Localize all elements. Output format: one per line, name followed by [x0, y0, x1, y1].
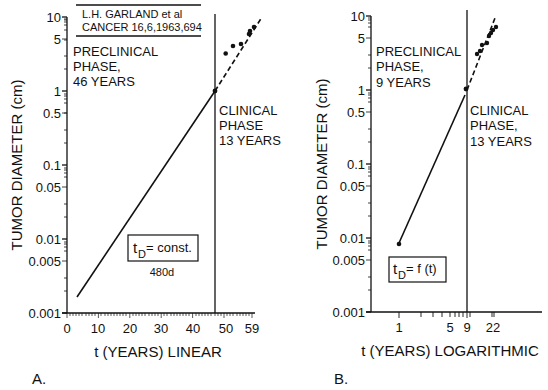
citation-line-1: L.H. GARLAND et al	[82, 8, 182, 20]
citation-line-2: CANCER 16,6,1963,694	[82, 21, 202, 33]
panel-a-ylabel: TUMOR DIAMETER (cm)	[8, 80, 25, 251]
panel-b-clinical-1: CLINICAL	[470, 103, 529, 118]
svg-text:10: 10	[91, 321, 105, 336]
svg-text:9 YEARS: 9 YEARS	[376, 75, 431, 90]
panel-b-xlabel: t (YEARS) LOGARITHMIC	[361, 342, 539, 359]
svg-text:PHASE,: PHASE,	[376, 59, 424, 74]
panel-a-doubling-text: = const.	[146, 240, 192, 255]
svg-text:PHASE: PHASE	[219, 118, 263, 133]
svg-text:0: 0	[63, 321, 70, 336]
svg-text:0.01: 0.01	[36, 232, 61, 247]
svg-text:0.001: 0.001	[332, 305, 365, 320]
svg-text:1: 1	[358, 83, 365, 98]
svg-text:5: 5	[446, 320, 453, 335]
svg-text:0.5: 0.5	[43, 106, 61, 121]
panel-a-doubling-value: 480d	[150, 266, 174, 278]
svg-text:10: 10	[351, 9, 365, 24]
svg-text:5: 5	[358, 31, 365, 46]
svg-text:PHASE,: PHASE,	[73, 59, 121, 74]
svg-text:0.1: 0.1	[347, 157, 365, 172]
svg-text:59: 59	[245, 321, 259, 336]
svg-text:9: 9	[463, 320, 470, 335]
panel-a-label: A.	[32, 370, 46, 387]
panel-a-preclinical-1: PRECLINICAL	[73, 44, 158, 59]
svg-text:13 YEARS: 13 YEARS	[470, 134, 532, 149]
panel-b-y-minor-ticks	[366, 18, 371, 290]
panel-a-labels: 10 5 1 0.5 0.1 0.05 0.01 0.005 0.001 0 1…	[8, 8, 281, 387]
panel-a-xlabel: t (YEARS) LINEAR	[94, 343, 222, 360]
panel-a-clinical-1: CLINICAL	[219, 103, 278, 118]
panel-b-x-ticks	[399, 312, 494, 318]
svg-text:0.01: 0.01	[340, 231, 365, 246]
svg-text:D: D	[398, 269, 406, 281]
svg-text:30: 30	[154, 321, 168, 336]
svg-text:0.5: 0.5	[347, 105, 365, 120]
panel-b-preclinical-1: PRECLINICAL	[376, 44, 461, 59]
svg-text:PHASE,: PHASE,	[470, 118, 518, 133]
panel-a-x-ticks	[67, 313, 252, 318]
svg-text:1: 1	[395, 320, 402, 335]
ytick-a-10: 10	[47, 10, 61, 25]
figure-canvas: 10 5 1 0.5 0.1 0.05 0.01 0.005 0.001 0 1…	[0, 0, 548, 390]
panel-b-ylabel: TUMOR DIAMETER (cm)	[313, 79, 330, 250]
svg-text:40: 40	[186, 321, 200, 336]
svg-text:0.005: 0.005	[28, 254, 61, 269]
svg-text:D: D	[138, 248, 146, 260]
svg-text:0.001: 0.001	[28, 306, 61, 321]
panel-b-model-line-extrapolated	[467, 18, 495, 90]
svg-text:50: 50	[219, 321, 233, 336]
panel-b-label: B.	[334, 370, 348, 387]
svg-text:0.05: 0.05	[36, 180, 61, 195]
svg-text:1: 1	[54, 84, 61, 99]
panel-a-y-minor-ticks	[62, 19, 67, 291]
svg-text:0.05: 0.05	[340, 179, 365, 194]
panel-b-labels: 10 5 1 0.5 0.1 0.05 0.01 0.005 0.001 1 5…	[313, 9, 539, 387]
svg-text:13 YEARS: 13 YEARS	[219, 133, 281, 148]
panel-b-model-line	[399, 95, 465, 243]
svg-text:46 YEARS: 46 YEARS	[73, 74, 135, 89]
svg-text:5: 5	[54, 32, 61, 47]
panel-b-doubling-text: = f (t)	[406, 261, 437, 276]
svg-text:22: 22	[486, 320, 500, 335]
svg-text:0.1: 0.1	[43, 158, 61, 173]
svg-text:0.005: 0.005	[332, 253, 365, 268]
panel-a-model-line	[77, 91, 215, 297]
svg-text:20: 20	[123, 321, 137, 336]
